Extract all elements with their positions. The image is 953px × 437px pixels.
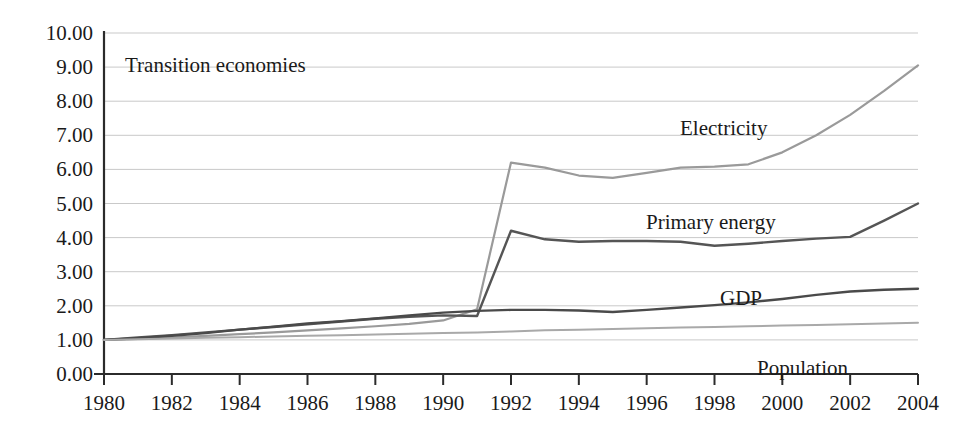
y-tick-label: 8.00 [7,91,93,112]
x-tick-label: 2000 [747,393,817,414]
x-tick-label: 1982 [137,393,207,414]
x-tick-label: 2004 [883,393,953,414]
y-tick-label: 4.00 [7,227,93,248]
data-series [104,65,918,340]
x-tick-label: 1986 [273,393,343,414]
gridlines [104,33,918,340]
series-label-population: Population [757,358,848,379]
y-tick-label: 7.00 [7,125,93,146]
x-tick-label: 1990 [408,393,478,414]
x-tick-label: 1984 [205,393,275,414]
y-tick-label: 9.00 [7,57,93,78]
x-tick-label: 1996 [612,393,682,414]
y-tick-label: 10.00 [7,23,93,44]
x-tick-label: 1992 [476,393,546,414]
chart-title: Transition economies [125,55,306,76]
y-tick-label: 0.00 [7,364,93,385]
y-tick-label: 2.00 [7,295,93,316]
x-tick-label: 1980 [69,393,139,414]
series-label-electricity: Electricity [680,118,767,139]
x-tick-label: 1994 [544,393,614,414]
y-tick-label: 5.00 [7,193,93,214]
series-label-gdp: GDP [720,288,762,309]
x-tick-label: 1988 [340,393,410,414]
series-line-electricity [104,65,918,340]
series-label-primary-energy: Primary energy [646,212,776,233]
x-tick-label: 2002 [815,393,885,414]
y-tick-label: 3.00 [7,261,93,282]
x-tick-label: 1998 [680,393,750,414]
y-tick-label: 1.00 [7,329,93,350]
axis-spines [94,31,918,374]
line-chart: 0.001.002.003.004.005.006.007.008.009.00… [0,0,953,437]
y-tick-label: 6.00 [7,159,93,180]
